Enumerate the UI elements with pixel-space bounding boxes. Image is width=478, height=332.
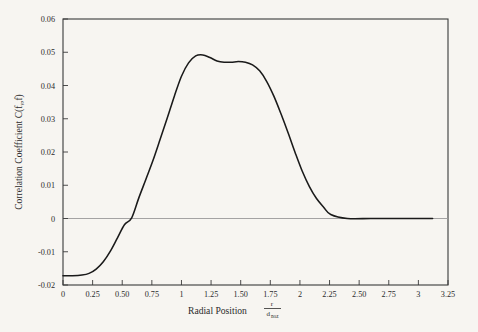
y-tick-label: -0.02 xyxy=(38,281,55,290)
correlation-coefficient-chart: 00.250.500.7511.251.501.7522.252.502.753… xyxy=(0,0,478,332)
x-tick-label: 3 xyxy=(416,290,420,299)
x-tick-label: 2.50 xyxy=(352,290,366,299)
x-tick-label: 0.50 xyxy=(115,290,129,299)
y-axis-title: Correlation Coefficient C(fv,f) xyxy=(13,94,25,210)
y-tick-label: 0 xyxy=(51,215,55,224)
x-tick-label: 3.25 xyxy=(441,290,455,299)
y-tick-label: 0.01 xyxy=(41,181,55,190)
y-tick-label: 0.06 xyxy=(41,15,55,24)
x-tick-label: 2 xyxy=(298,290,302,299)
x-tick-label: 0.25 xyxy=(85,290,99,299)
x-axis-title-denominator: d xyxy=(267,310,271,318)
x-tick-label: 0.75 xyxy=(145,290,159,299)
y-tick-label: 0.05 xyxy=(41,48,55,57)
y-tick-label: 0.03 xyxy=(41,115,55,124)
y-axis-title-text: Correlation Coefficient C(fv,f) xyxy=(13,94,25,210)
x-tick-label: 2.25 xyxy=(322,290,336,299)
y-tick-label: -0.01 xyxy=(38,248,55,257)
x-tick-label: 1.50 xyxy=(234,290,248,299)
figure-container: 00.250.500.7511.251.501.7522.252.502.753… xyxy=(0,0,478,332)
x-tick-label: 2.75 xyxy=(382,290,396,299)
x-axis-title-text: Radial Position xyxy=(188,305,247,316)
chart-background xyxy=(0,0,478,332)
x-axis-title-denominator-subscript: noz xyxy=(271,313,279,319)
x-tick-label: 0 xyxy=(61,290,65,299)
x-tick-label: 1.75 xyxy=(263,290,277,299)
y-tick-label: 0.02 xyxy=(41,148,55,157)
x-tick-label: 1 xyxy=(179,290,183,299)
y-axis-title-main: Correlation Coefficient C( xyxy=(13,109,25,210)
y-axis-title-tail: ,f) xyxy=(13,94,25,103)
y-tick-label: 0.04 xyxy=(41,82,55,91)
x-tick-label: 1.25 xyxy=(204,290,218,299)
